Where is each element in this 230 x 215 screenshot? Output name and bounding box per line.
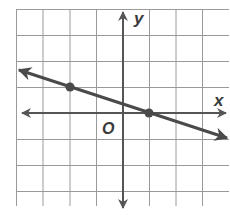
point-neg2-1 xyxy=(66,83,75,92)
point-1-0 xyxy=(145,109,154,118)
axes xyxy=(22,12,226,208)
x-axis-label: x xyxy=(213,91,225,110)
origin-label: O xyxy=(102,120,115,137)
y-axis-label: y xyxy=(133,9,145,28)
coordinate-plane: y x O xyxy=(0,0,230,215)
